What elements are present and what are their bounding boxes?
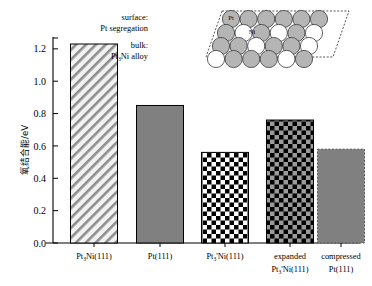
category-label-4: expanded [274, 252, 307, 261]
y-tick-label: 1.2 [34, 43, 47, 54]
y-tick-label: 0.8 [34, 108, 47, 119]
inset-lattice-diagram: Pt Ni [206, 10, 349, 67]
category-label-5: compressed [321, 252, 361, 261]
y-axis-label-text: 氧结合能/eV [19, 125, 30, 175]
chart-figure: 氧结合能/eV 0.00.20.40.60.81.01.2 Pt3Ni(111)… [0, 0, 372, 286]
y-axis-label: 氧结合能/eV [19, 125, 30, 175]
category-label-1: Pt3Ni(111) [76, 252, 112, 262]
atom-pt [225, 50, 242, 67]
category-label-5-line2: Pt(111) [329, 265, 354, 274]
atom-ni [278, 50, 295, 67]
atom-pt [295, 50, 312, 67]
bar-3 [202, 152, 249, 243]
bar-4 [267, 120, 314, 243]
inset-surface-line2: Pt segregation [100, 24, 148, 33]
atom-pt [243, 50, 260, 67]
category-label-3: Pt3'Ni(111) [206, 252, 243, 262]
y-tick-label: 0.4 [34, 173, 47, 184]
bar-1 [71, 44, 118, 243]
y-tick-label: 1.0 [34, 76, 47, 87]
category-label-2: Pt(111) [148, 252, 173, 261]
y-tick-label: 0.6 [34, 141, 47, 152]
y-tick-label: 0.0 [34, 238, 47, 249]
bar-5 [318, 149, 365, 243]
category-label-4-line2: Pt3'Ni(111) [271, 265, 308, 275]
inset-surface-line1: surface: [121, 13, 148, 22]
y-tick-label: 0.2 [34, 205, 47, 216]
x-axis-ticks [94, 243, 341, 247]
lattice-atoms [207, 10, 327, 67]
atom-ni-label: Ni [249, 28, 256, 35]
y-axis-ticks: 0.00.20.40.60.81.01.2 [34, 38, 59, 249]
inset-bulk-line2: Pt3Ni alloy [111, 52, 149, 62]
bar-series [71, 44, 365, 243]
inset-bulk-line1: bulk: [131, 41, 148, 50]
bar-chart-svg: 氧结合能/eV 0.00.20.40.60.81.01.2 Pt3Ni(111)… [0, 0, 372, 286]
atom-pt-label: Pt [228, 14, 234, 21]
bar-2 [137, 105, 184, 243]
x-axis-category-labels: Pt3Ni(111)Pt(111)Pt3'Ni(111)expandedPt3'… [76, 252, 361, 275]
atom-pt [260, 50, 277, 67]
atom-ni [207, 50, 224, 67]
